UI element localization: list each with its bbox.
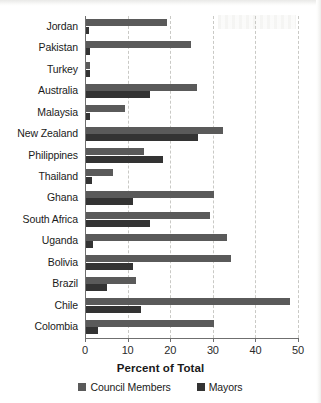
chart-row: Jordan <box>0 16 321 37</box>
bar-council-members-uganda <box>86 234 227 241</box>
category-label-ghana: Ghana <box>0 191 78 203</box>
bar-council-members-malaysia <box>86 105 125 112</box>
category-label-turkey: Turkey <box>0 63 78 75</box>
legend-item-council-members[interactable]: Council Members <box>78 381 170 393</box>
bar-council-members-australia <box>86 84 197 91</box>
chart-row: Uganda <box>0 231 321 252</box>
bar-mayors-philippines <box>86 156 163 163</box>
bar-council-members-chile <box>86 298 290 305</box>
chart-row: Ghana <box>0 188 321 209</box>
x-axis-line <box>85 338 299 339</box>
category-label-uganda: Uganda <box>0 234 78 246</box>
chart-row: Australia <box>0 80 321 101</box>
x-tick-label-10: 10 <box>113 344 143 356</box>
bar-mayors-bolivia <box>86 263 133 270</box>
bar-mayors-australia <box>86 91 150 98</box>
x-tick-label-50: 50 <box>283 344 313 356</box>
legend-swatch-icon <box>78 383 86 391</box>
x-tick-label-40: 40 <box>240 344 270 356</box>
grouped-bar-chart: 01020304050 JordanPakistanTurkeyAustrali… <box>0 0 321 403</box>
category-label-australia: Australia <box>0 84 78 96</box>
category-label-jordan: Jordan <box>0 20 78 32</box>
chart-row: Bolivia <box>0 252 321 273</box>
category-label-thailand: Thailand <box>0 170 78 182</box>
bar-council-members-pakistan <box>86 41 191 48</box>
bar-council-members-bolivia <box>86 255 231 262</box>
bar-council-members-turkey <box>86 62 90 69</box>
legend-label: Mayors <box>209 381 243 393</box>
category-label-pakistan: Pakistan <box>0 41 78 53</box>
bar-mayors-ghana <box>86 198 133 205</box>
bar-mayors-new-zealand <box>86 134 198 141</box>
bar-mayors-south-africa <box>86 220 150 227</box>
chart-row: Brazil <box>0 274 321 295</box>
chart-legend: Council MembersMayors <box>0 381 321 393</box>
chart-row: South Africa <box>0 209 321 230</box>
bar-council-members-brazil <box>86 277 136 284</box>
bar-council-members-colombia <box>86 320 214 327</box>
bar-mayors-pakistan <box>86 48 90 55</box>
bar-mayors-turkey <box>86 70 90 77</box>
bar-mayors-thailand <box>86 177 92 184</box>
bar-council-members-south-africa <box>86 212 210 219</box>
legend-item-mayors[interactable]: Mayors <box>197 381 243 393</box>
bar-council-members-philippines <box>86 148 144 155</box>
x-tick-label-20: 20 <box>155 344 185 356</box>
chart-row: Turkey <box>0 59 321 80</box>
chart-row: Philippines <box>0 145 321 166</box>
x-axis-title: Percent of Total <box>0 362 321 374</box>
category-label-new-zealand: New Zealand <box>0 127 78 139</box>
category-label-colombia: Colombia <box>0 320 78 332</box>
chart-row: Thailand <box>0 166 321 187</box>
chart-row: New Zealand <box>0 123 321 144</box>
category-label-brazil: Brazil <box>0 277 78 289</box>
bar-council-members-new-zealand <box>86 127 223 134</box>
bar-council-members-jordan <box>86 19 167 26</box>
chart-row: Chile <box>0 295 321 316</box>
category-label-malaysia: Malaysia <box>0 106 78 118</box>
bar-mayors-brazil <box>86 284 107 291</box>
bar-mayors-chile <box>86 306 141 313</box>
bar-council-members-ghana <box>86 191 214 198</box>
chart-row: Malaysia <box>0 102 321 123</box>
x-tick-label-0: 0 <box>70 344 100 356</box>
bar-mayors-colombia <box>86 327 98 334</box>
bar-council-members-thailand <box>86 169 113 176</box>
category-label-south-africa: South Africa <box>0 213 78 225</box>
chart-row: Colombia <box>0 317 321 338</box>
x-tick-label-30: 30 <box>198 344 228 356</box>
chart-row: Pakistan <box>0 37 321 58</box>
category-label-bolivia: Bolivia <box>0 256 78 268</box>
category-label-chile: Chile <box>0 299 78 311</box>
legend-label: Council Members <box>90 381 170 393</box>
y-axis-line <box>85 16 86 339</box>
bar-mayors-malaysia <box>86 113 90 120</box>
bar-mayors-uganda <box>86 241 93 248</box>
category-label-philippines: Philippines <box>0 149 78 161</box>
bar-mayors-jordan <box>86 27 89 34</box>
legend-swatch-icon <box>197 383 205 391</box>
